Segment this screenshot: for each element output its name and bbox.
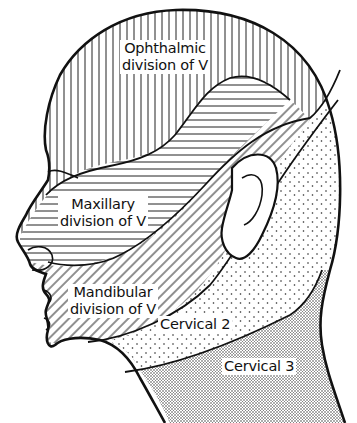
- label-line: Cervical 3: [224, 358, 294, 375]
- label-ophthalmic: Ophthalmic division of V: [120, 40, 210, 74]
- label-line: division of V: [60, 213, 146, 230]
- label-line: Mandibular: [70, 284, 156, 301]
- label-maxillary: Maxillary division of V: [58, 196, 148, 230]
- label-line: Maxillary: [60, 196, 146, 213]
- label-line: Cervical 2: [160, 316, 230, 333]
- label-cervical2: Cervical 2: [158, 316, 232, 333]
- label-line: Ophthalmic: [122, 40, 208, 57]
- label-line: division of V: [70, 301, 156, 318]
- label-mandibular: Mandibular division of V: [68, 284, 158, 318]
- label-cervical3: Cervical 3: [222, 358, 296, 375]
- label-line: division of V: [122, 57, 208, 74]
